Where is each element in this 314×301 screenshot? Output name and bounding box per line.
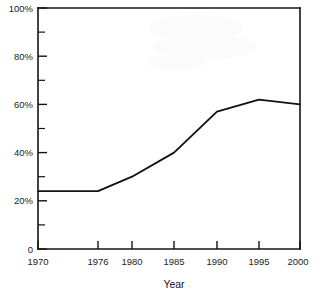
x-tick-label-1980: 1980 — [121, 256, 142, 267]
x-tick-label-1985: 1985 — [163, 256, 184, 267]
x-tick-label-1990: 1990 — [206, 256, 227, 267]
line-chart-figure: 100% 80% 60% 40% 20% 0 1970 1976 1980 19… — [0, 0, 314, 301]
chart-canvas: 100% 80% 60% 40% 20% 0 1970 1976 1980 19… — [0, 0, 314, 301]
x-axis-title: Year — [163, 278, 185, 290]
x-tick-label-1976: 1976 — [87, 256, 108, 267]
y-tick-label-40: 40% — [14, 147, 34, 158]
x-tick-label-2000: 2000 — [287, 256, 308, 267]
y-tick-label-20: 20% — [14, 195, 34, 206]
y-tick-label-60: 60% — [14, 99, 34, 110]
y-tick-label-100: 100% — [9, 3, 34, 14]
y-tick-label-0: 0 — [28, 244, 33, 255]
x-tick-label-1970: 1970 — [27, 256, 48, 267]
y-tick-label-80: 80% — [14, 51, 34, 62]
x-tick-label-1995: 1995 — [248, 256, 269, 267]
